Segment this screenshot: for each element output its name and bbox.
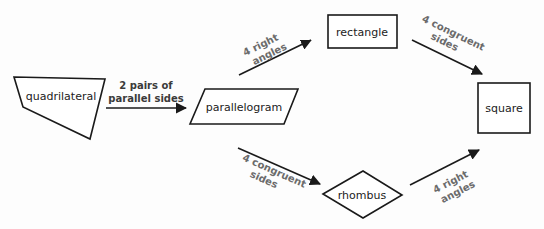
edge-parallelogram-to-rhombus: 4 congruent sides: [236, 148, 320, 201]
quadrilateral-hierarchy-diagram: quadrilateral 2 pairs of parallel sides …: [0, 0, 544, 229]
edge-label-line1: 2 pairs of: [119, 80, 173, 91]
node-square: square: [478, 83, 530, 133]
edge-rhombus-to-square: 4 right angles: [410, 150, 479, 206]
edge-quadrilateral-to-parallelogram: 2 pairs of parallel sides: [106, 80, 186, 108]
quadrilateral-label: quadrilateral: [26, 90, 96, 103]
edge-label-line2: parallel sides: [108, 93, 183, 104]
node-rectangle: rectangle: [328, 15, 397, 48]
rectangle-label: rectangle: [336, 26, 388, 39]
edge-rectangle-to-square: 4 congruent sides: [412, 13, 487, 74]
node-rhombus: rhombus: [323, 171, 402, 218]
node-quadrilateral: quadrilateral: [14, 77, 105, 139]
rhombus-label: rhombus: [338, 189, 387, 202]
edge-parallelogram-to-rectangle: 4 right angles: [239, 30, 311, 75]
quadrilateral-shape: [14, 77, 105, 139]
parallelogram-label: parallelogram: [206, 101, 283, 114]
node-parallelogram: parallelogram: [190, 89, 298, 124]
square-label: square: [485, 102, 523, 115]
